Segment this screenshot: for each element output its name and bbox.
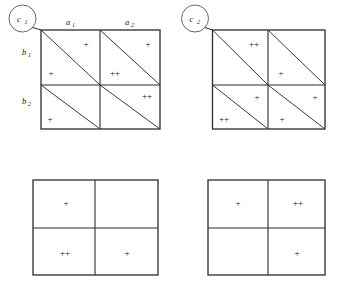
panel-c1-cell-r2c1-lower: +: [47, 114, 52, 124]
panel-bottom-right-cell-r1c2: ++: [293, 198, 303, 208]
column-label-a1-subscript: 1: [72, 22, 75, 28]
panel-c2-cell-r2c1-upper: +: [254, 92, 259, 102]
node-c2-subscript: 2: [197, 19, 200, 25]
panel-c2-cell-r2c2-lower: +: [279, 114, 284, 124]
node-c1-subscript: 1: [25, 19, 28, 25]
panel-bottom-right-cell-r1c1: +: [235, 198, 240, 208]
column-label-a2: a: [125, 17, 129, 27]
panel-bottom-right-cell-r2c2: +: [294, 248, 299, 258]
figure-canvas: c 1 a 1 a 2 b 1 b 2: [0, 0, 338, 287]
node-c1-connector: [33, 28, 42, 31]
panel-bottom-left: + ++ +: [33, 180, 158, 275]
node-c1-label: c: [17, 14, 21, 24]
row-label-b1: b: [22, 47, 26, 57]
panel-c1-cell-r1c1-upper: +: [83, 39, 88, 49]
panel-bottom-left-cell-r2c1: ++: [60, 248, 70, 258]
panel-c2-cell-r2c2-upper: +: [312, 92, 317, 102]
panel-c2: c 2 ++ + + ++ + +: [182, 5, 326, 129]
panel-c1-cell-r1c1-lower: +: [48, 68, 53, 78]
panel-c1-cell-r2c2-upper: ++: [142, 91, 152, 101]
node-c2: c 2: [182, 5, 213, 32]
node-c2-circle: [182, 5, 209, 32]
panel-c2-diagonal-r1c1: [213, 30, 269, 85]
node-c2-connector: [205, 28, 213, 31]
column-label-a2-subscript: 2: [131, 22, 134, 28]
panel-c2-cell-r1c2-lower: +: [278, 68, 283, 78]
panel-c2-diagonal-r1c2: [268, 30, 325, 85]
panel-c1-cell-r1c2-lower: ++: [110, 68, 120, 78]
node-c1: c 1: [9, 5, 41, 32]
panel-c2-cell-r2c1-lower: ++: [219, 114, 229, 124]
row-label-b2-subscript: 2: [28, 101, 31, 107]
panel-bottom-left-cell-r1c1: +: [63, 198, 68, 208]
panel-c1: c 1 a 1 a 2 b 1 b 2: [9, 5, 160, 129]
row-label-b1-subscript: 1: [28, 52, 31, 58]
panel-c1-cell-r1c2-upper: +: [145, 39, 150, 49]
panel-bottom-right: + ++ +: [208, 180, 325, 275]
node-c1-circle: [9, 5, 36, 32]
panel-bottom-left-cell-r2c2: +: [124, 248, 129, 258]
panel-c2-cell-r1c1-upper: ++: [249, 39, 259, 49]
panel-c2-border: [213, 30, 326, 129]
node-c2-label: c: [190, 14, 194, 24]
row-label-b2: b: [22, 96, 26, 106]
column-label-a1: a: [66, 17, 70, 27]
